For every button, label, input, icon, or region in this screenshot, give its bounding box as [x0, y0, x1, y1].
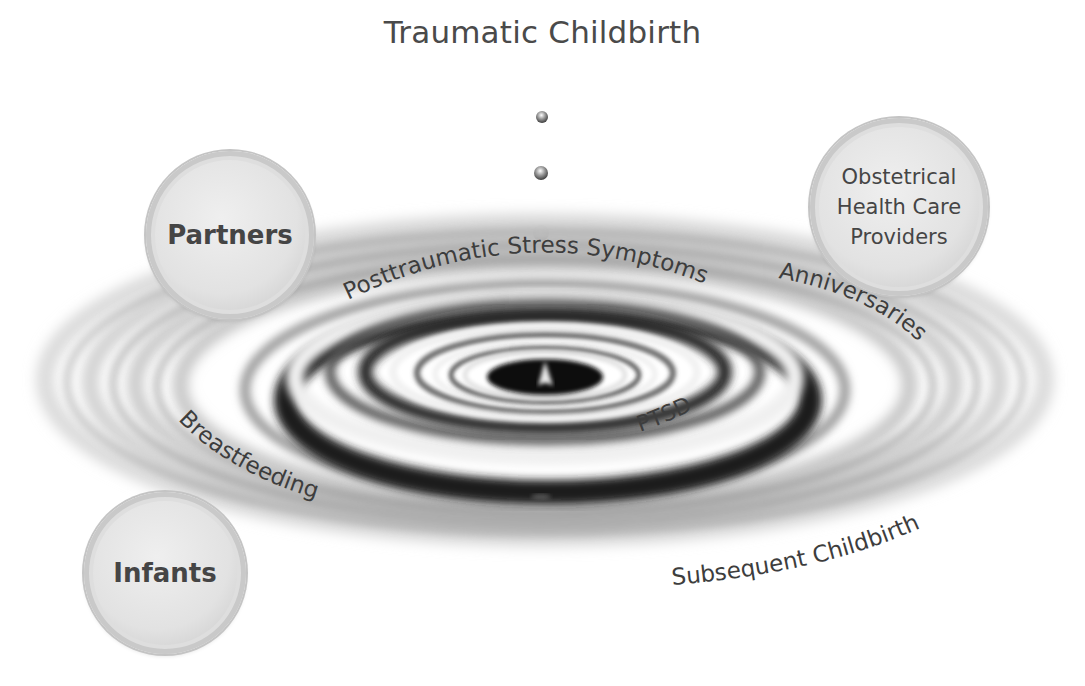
water-drop-icon	[534, 166, 548, 180]
bubble-partners: Partners	[146, 151, 314, 319]
bubble-label: Infants	[113, 558, 216, 588]
water-drop-icon	[536, 111, 548, 123]
bubble-label-line: Health Care	[837, 192, 961, 222]
ripple-effect-diagram: Traumatic Childbirth	[0, 0, 1085, 686]
bubble-label: Partners	[167, 220, 293, 250]
bubble-label-line: Obstetrical	[837, 162, 961, 192]
bubble-infants: Infants	[84, 492, 246, 654]
bubble-obstetrical-health-care-providers: Obstetrical Health Care Providers	[810, 118, 988, 296]
bubble-label-line: Providers	[837, 222, 961, 252]
